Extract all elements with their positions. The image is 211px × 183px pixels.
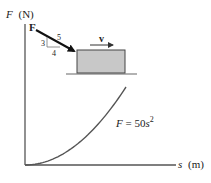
slope-hypotenuse-label: 5 bbox=[57, 33, 61, 42]
force-label: F bbox=[29, 21, 36, 33]
curve-equation: F = 50s2 bbox=[115, 115, 154, 129]
block bbox=[77, 50, 125, 73]
slope-run-label: 4 bbox=[52, 49, 56, 58]
x-axis-unit: (m) bbox=[188, 158, 204, 171]
slope-rise-label: 3 bbox=[41, 39, 45, 48]
velocity-label: v bbox=[99, 33, 104, 44]
equation-rhs: = 50 bbox=[123, 117, 146, 129]
equation-exponent: 2 bbox=[150, 115, 154, 124]
x-axis-label: s (m) bbox=[178, 158, 204, 171]
x-axis-var: s bbox=[178, 158, 182, 170]
force-curve bbox=[25, 87, 126, 165]
y-axis-unit: (N) bbox=[18, 8, 34, 21]
y-axis-var: F bbox=[5, 8, 13, 20]
y-axis-label: F (N) bbox=[5, 8, 34, 21]
force-displacement-diagram: F (N) s (m) F = 50s2 v F 3 4 5 bbox=[0, 0, 211, 183]
